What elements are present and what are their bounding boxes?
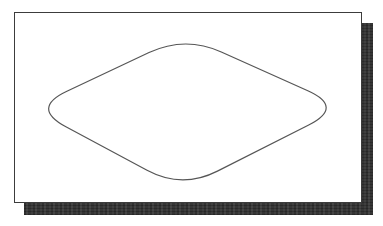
- rounded-diamond-outline: [49, 44, 327, 180]
- panel: [14, 12, 362, 203]
- rounded-diamond-drawing: [15, 13, 361, 202]
- figure-canvas: [0, 0, 383, 226]
